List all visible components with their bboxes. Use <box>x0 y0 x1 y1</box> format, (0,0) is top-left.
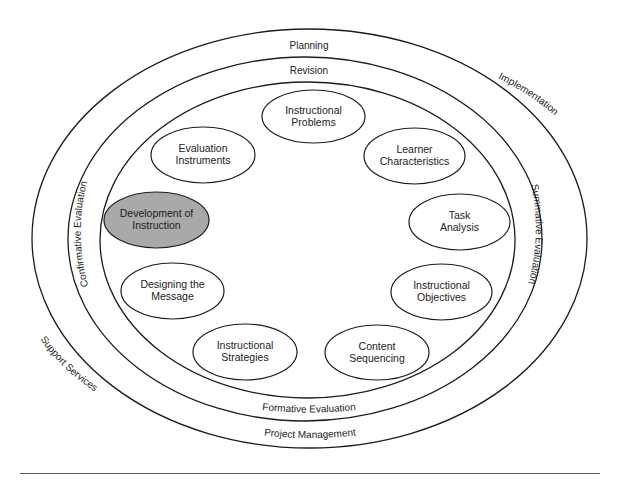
ring-label-formative-evaluation: Formative Evaluation <box>262 401 356 415</box>
svg-text:Objectives: Objectives <box>417 291 466 303</box>
ring-label-project-management: Project Management <box>264 426 357 440</box>
node-evaluation-instruments: Evaluation Instruments <box>151 127 255 183</box>
node-task-analysis: Task Analysis <box>409 194 510 250</box>
node-instructional-strategies: Instructional Strategies <box>193 324 297 380</box>
svg-text:Instructional: Instructional <box>217 339 274 351</box>
ring-label-revision: Revision <box>290 65 328 76</box>
svg-text:Evaluation: Evaluation <box>178 142 227 154</box>
svg-text:Content: Content <box>359 340 396 352</box>
svg-text:Learner: Learner <box>396 143 433 155</box>
horizontal-rule <box>20 473 600 474</box>
svg-text:Analysis: Analysis <box>440 221 479 233</box>
svg-text:Instructional: Instructional <box>285 104 342 116</box>
node-designing-the-message: Designing the Message <box>121 263 224 319</box>
instructional-design-diagram: Planning Implementation Support Services… <box>0 0 620 481</box>
ring-label-summative-evaluation: Summative Evaluation <box>527 183 545 286</box>
svg-text:Instruction: Instruction <box>132 219 181 231</box>
node-learner-characteristics: Learner Characteristics <box>364 128 465 184</box>
svg-text:Message: Message <box>151 290 194 302</box>
svg-text:Sequencing: Sequencing <box>349 352 405 364</box>
node-instructional-objectives: Instructional Objectives <box>391 264 492 320</box>
node-instructional-problems: Instructional Problems <box>262 90 365 143</box>
svg-text:Designing the: Designing the <box>140 278 204 290</box>
node-development-of-instruction: Development of Instruction <box>104 192 209 248</box>
ring-label-planning: Planning <box>290 40 329 51</box>
svg-text:Problems: Problems <box>291 116 335 128</box>
svg-text:Instruments: Instruments <box>176 154 231 166</box>
svg-text:Development of: Development of <box>120 207 194 219</box>
svg-text:Instructional: Instructional <box>413 279 470 291</box>
svg-text:Characteristics: Characteristics <box>380 155 449 167</box>
svg-text:Task: Task <box>449 209 471 221</box>
svg-text:Strategies: Strategies <box>221 351 268 363</box>
node-content-sequencing: Content Sequencing <box>325 325 429 380</box>
